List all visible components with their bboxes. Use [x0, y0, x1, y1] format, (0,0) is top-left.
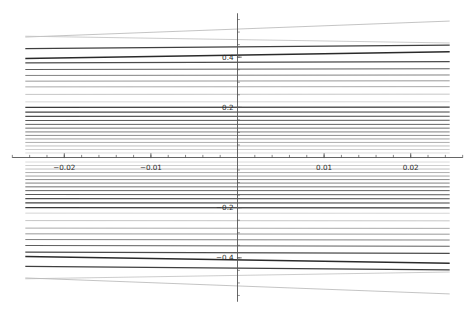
x-axis-tick-label: 0.02: [403, 163, 419, 172]
y-axis-tick-label: 0.2: [222, 103, 233, 112]
line-plot: −0.02−0.010.010.020.40.2−0.2−0.4: [0, 0, 475, 315]
y-axis-tick-label: 0.4: [222, 53, 234, 62]
x-axis-tick-label: −0.02: [53, 163, 75, 172]
x-axis-tick-label: −0.01: [140, 163, 162, 172]
x-axis-tick-label: 0.01: [316, 163, 332, 172]
chart-canvas: −0.02−0.010.010.020.40.2−0.2−0.4: [0, 0, 475, 315]
y-axis-tick-label: −0.4: [216, 253, 234, 262]
y-axis-tick-label: −0.2: [216, 203, 233, 212]
